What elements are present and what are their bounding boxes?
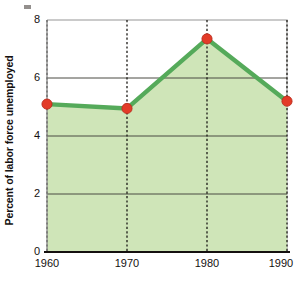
data-point-1980 bbox=[202, 34, 212, 44]
data-point-1990 bbox=[282, 96, 292, 106]
data-point-1960 bbox=[42, 99, 52, 109]
unemployment-area-chart: Percent of labor force unemployed 8 6 4 … bbox=[0, 0, 308, 281]
data-point-1970 bbox=[122, 103, 132, 113]
plot-area bbox=[0, 0, 308, 281]
